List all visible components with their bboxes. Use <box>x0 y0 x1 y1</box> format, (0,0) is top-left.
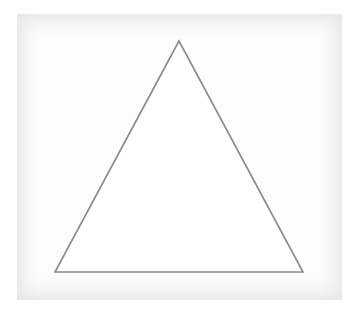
triangle-shape <box>55 41 303 272</box>
canvas <box>0 0 360 315</box>
triangle-diagram <box>0 0 360 315</box>
